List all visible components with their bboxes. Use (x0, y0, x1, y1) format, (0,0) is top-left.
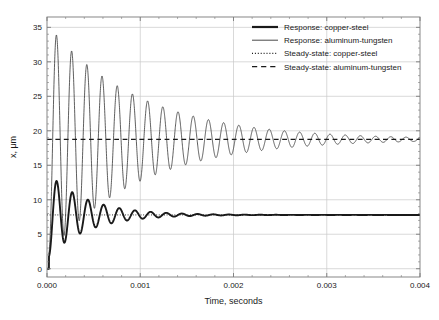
y-tick-label: 0 (38, 265, 43, 274)
y-axis-title: x, μm (8, 136, 18, 158)
y-tick-label: 15 (33, 161, 42, 170)
damped-response-chart: 051015202530350.0000.0010.0020.0030.004T… (0, 0, 439, 320)
x-tick-label: 0.001 (130, 281, 151, 290)
y-tick-label: 30 (33, 58, 42, 67)
x-tick-label: 0.000 (37, 281, 58, 290)
y-tick-label: 25 (33, 92, 42, 101)
legend-label-1: Response: aluminum-tungsten (284, 36, 393, 45)
x-axis-title: Time, seconds (204, 296, 263, 306)
x-tick-label: 0.004 (410, 281, 431, 290)
y-tick-label: 20 (33, 127, 42, 136)
legend-label-0: Response: copper-steel (284, 23, 369, 32)
x-tick-label: 0.002 (223, 281, 244, 290)
y-tick-label: 10 (33, 196, 42, 205)
legend-label-2: Steady-state: copper-steel (284, 49, 378, 58)
x-tick-label: 0.003 (317, 281, 338, 290)
y-tick-label: 5 (38, 230, 43, 239)
chart-container: 051015202530350.0000.0010.0020.0030.004T… (0, 0, 439, 320)
y-tick-label: 35 (33, 23, 42, 32)
legend-label-3: Steady-state: aluminum-tungsten (284, 63, 401, 72)
